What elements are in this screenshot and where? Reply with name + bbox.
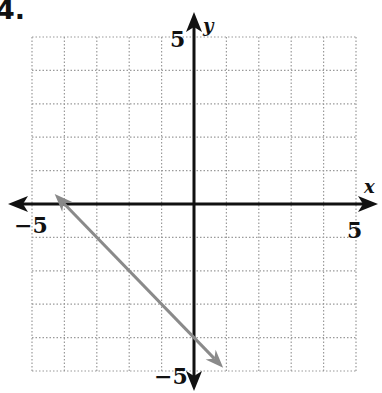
x-axis-label: x bbox=[363, 176, 375, 197]
y-max-label: 5 bbox=[170, 26, 185, 52]
plotted-line bbox=[55, 194, 223, 368]
coordinate-plane: 5−5−55xy bbox=[0, 0, 382, 393]
line-segment bbox=[63, 203, 214, 359]
y-axis-label: y bbox=[202, 15, 215, 36]
x-max-label: 5 bbox=[347, 217, 362, 243]
y-min-label: −5 bbox=[154, 363, 188, 389]
x-min-label: −5 bbox=[14, 212, 48, 238]
